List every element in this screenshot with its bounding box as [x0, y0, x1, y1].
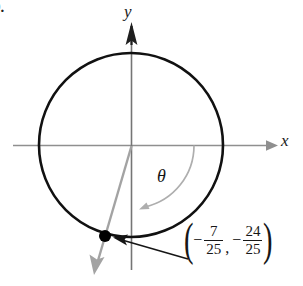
- coordinate-separator: ,: [225, 239, 229, 257]
- x-axis-arrowhead: [266, 140, 278, 151]
- y-coordinate: − 24 25: [232, 224, 263, 257]
- coordinate-label: ( − 7 25 , − 24 25 ): [181, 224, 276, 257]
- y-numerator: 24: [243, 224, 262, 239]
- angle-arc: [139, 146, 194, 210]
- terminal-ray-arrowhead: [90, 255, 105, 276]
- y-coordinate-fraction: 24 25: [243, 224, 262, 257]
- label-pointer-arrow: [113, 235, 188, 260]
- x-axis: [13, 140, 278, 151]
- x-axis-label: x: [281, 131, 289, 151]
- theta-label: θ: [157, 166, 166, 187]
- unit-circle-figure: 9. y: [0, 0, 303, 286]
- terminal-point-dot: [99, 230, 111, 242]
- y-coordinate-sign: −: [232, 231, 241, 249]
- x-numerator: 7: [208, 224, 220, 239]
- y-denominator: 25: [243, 242, 262, 257]
- angle-arc-path: [145, 146, 194, 208]
- terminal-ray: [90, 146, 132, 275]
- close-paren: ): [263, 223, 273, 256]
- y-axis-label: y: [124, 2, 132, 22]
- terminal-ray-line: [97, 146, 132, 264]
- x-coordinate: − 7 25: [193, 224, 224, 257]
- angle-arc-arrowhead: [139, 203, 150, 210]
- x-coordinate-fraction: 7 25: [204, 224, 223, 257]
- x-coordinate-sign: −: [193, 231, 202, 249]
- x-denominator: 25: [204, 242, 223, 257]
- open-paren: (: [184, 223, 194, 256]
